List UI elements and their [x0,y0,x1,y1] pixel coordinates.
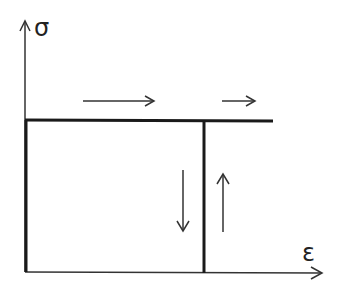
y-axis-label: σ [34,14,49,42]
arrow-right-2-icon [222,96,255,106]
x-axis-label: ε [302,239,315,267]
arrow-up-icon [217,174,229,232]
arrow-down-icon [177,170,189,231]
x-axis [25,267,322,279]
stress-strain-diagram: σ ε [0,0,337,295]
arrow-right-1-icon [83,96,154,106]
stress-strain-curve [25,120,273,273]
yield-plateau-line [25,120,273,121]
